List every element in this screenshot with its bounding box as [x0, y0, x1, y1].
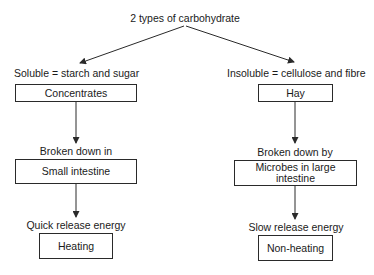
non-heating-box: Non-heating [258, 235, 333, 261]
small-intestine-text: Small intestine [42, 166, 110, 177]
hay-text: Hay [286, 88, 305, 99]
quick-release-label: Quick release energy [16, 219, 136, 231]
small-intestine-box: Small intestine [15, 159, 137, 184]
soluble-label: Soluble = starch and sugar [14, 67, 139, 79]
heating-box: Heating [39, 233, 113, 259]
non-heating-text: Non-heating [267, 243, 324, 254]
heating-text: Heating [58, 241, 94, 252]
microbes-text: Microbes in large intestine [243, 162, 348, 184]
root-label: 2 types of carbohydrate [125, 12, 245, 24]
slow-release-label: Slow release energy [236, 221, 356, 233]
concentrates-box: Concentrates [15, 84, 137, 102]
microbes-box: Microbes in large intestine [234, 160, 357, 186]
concentrates-text: Concentrates [45, 88, 107, 99]
arrow-root-to-soluble [80, 26, 184, 63]
broken-down-in-label: Broken down in [26, 145, 126, 157]
arrow-root-to-insoluble [186, 26, 294, 62]
hay-box: Hay [258, 84, 333, 102]
insoluble-label: Insoluble = cellulose and fibre [227, 67, 365, 79]
broken-down-by-label: Broken down by [245, 146, 345, 158]
